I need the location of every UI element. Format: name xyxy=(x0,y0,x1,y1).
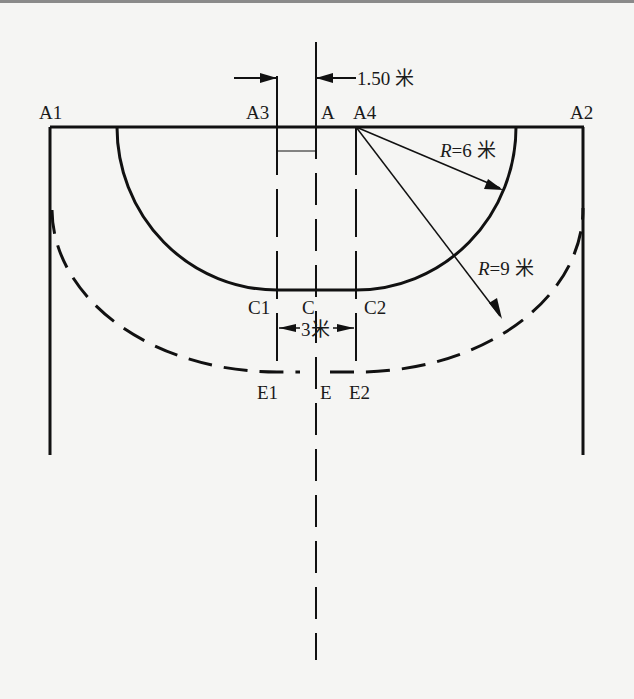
label-r9: R=9 米 xyxy=(477,258,534,279)
label-E: E xyxy=(320,382,332,403)
label-C: C xyxy=(302,297,315,318)
label-C1: C1 xyxy=(248,297,270,318)
label-A: A xyxy=(321,102,335,123)
radius-r9-head xyxy=(489,298,502,319)
label-C2: C2 xyxy=(364,297,386,318)
label-A2: A2 xyxy=(570,102,593,123)
label-r6-eq: =6 米 xyxy=(452,140,496,161)
radius-r6-head xyxy=(484,179,503,190)
label-A4: A4 xyxy=(353,102,377,123)
label-A3: A3 xyxy=(246,102,269,123)
label-r9-var: R xyxy=(477,258,490,279)
dim-3m-left-head xyxy=(279,324,296,332)
label-dim-3m: 3米 xyxy=(301,319,330,340)
dim-3m-right-head xyxy=(337,324,354,332)
label-r9-eq: =9 米 xyxy=(490,258,534,279)
label-dim-top: 1.50 米 xyxy=(357,68,414,89)
label-E1: E1 xyxy=(257,382,278,403)
dim-arrow-left-head xyxy=(260,73,277,83)
label-A1: A1 xyxy=(39,102,62,123)
label-r6-var: R xyxy=(439,140,452,161)
dim-arrow-right-head xyxy=(316,73,333,83)
diagram-canvas: 1.50 米 A1 A3 A A4 A2 R=6 米 R=9 米 C1 C C2… xyxy=(0,0,634,699)
label-r6: R=6 米 xyxy=(439,140,496,161)
label-E2: E2 xyxy=(349,382,370,403)
